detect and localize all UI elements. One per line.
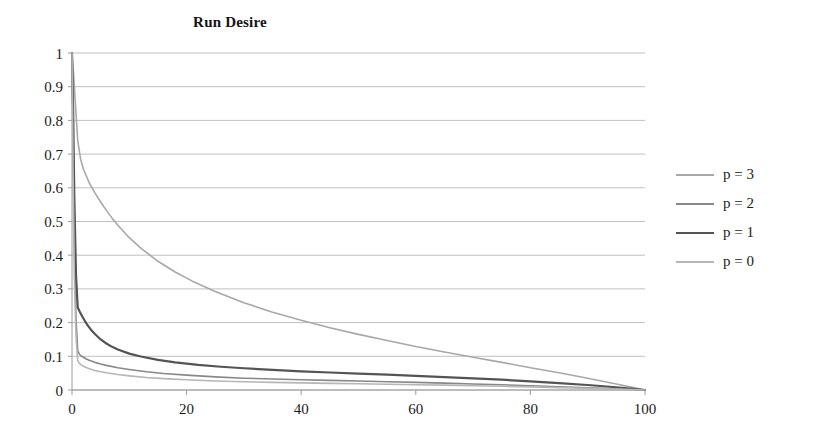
legend-item[interactable]: p = 0 — [676, 247, 806, 276]
legend-color-swatch — [676, 174, 714, 176]
y-axis-tick-label: 0.2 — [44, 315, 63, 331]
x-axis-tick-label: 60 — [408, 401, 423, 417]
legend-item-label: p = 1 — [723, 224, 754, 241]
x-axis-labels-group: 020406080100 — [68, 401, 656, 417]
y-axis-tick-label: 1 — [56, 46, 64, 62]
y-axis-tick-label: 0.6 — [44, 180, 63, 196]
x-axis-tick-label: 0 — [68, 401, 76, 417]
x-axis-tick-label: 80 — [523, 401, 538, 417]
legend-item[interactable]: p = 1 — [676, 218, 806, 247]
tick-marks-group — [68, 53, 645, 395]
legend-color-swatch — [676, 232, 714, 234]
legend-item-label: p = 3 — [723, 166, 754, 183]
y-axis-tick-label: 0.3 — [44, 281, 63, 297]
y-axis-tick-label: 0.5 — [44, 214, 63, 230]
legend-item[interactable]: p = 3 — [676, 160, 806, 189]
legend-color-swatch — [676, 203, 714, 205]
legend-item[interactable]: p = 2 — [676, 189, 806, 218]
y-axis-tick-label: 0.7 — [44, 147, 63, 163]
chart-container: Run Desire 00.10.20.30.40.50.60.70.80.91… — [0, 0, 816, 439]
y-axis-tick-label: 0.1 — [44, 349, 63, 365]
legend-color-swatch — [676, 261, 714, 263]
gridlines-group — [72, 53, 645, 390]
x-axis-tick-label: 40 — [294, 401, 309, 417]
x-axis-tick-label: 100 — [634, 401, 657, 417]
y-axis-tick-label: 0.9 — [44, 79, 63, 95]
x-axis-tick-label: 20 — [179, 401, 194, 417]
y-axis-tick-label: 0.4 — [44, 248, 63, 264]
chart-legend: p = 3p = 2p = 1p = 0 — [676, 160, 806, 276]
y-axis-tick-label: 0.8 — [44, 113, 63, 129]
y-axis-labels-group: 00.10.20.30.40.50.60.70.80.91 — [44, 46, 63, 399]
y-axis-tick-label: 0 — [56, 383, 64, 399]
legend-item-label: p = 0 — [723, 253, 754, 270]
legend-item-label: p = 2 — [723, 195, 754, 212]
